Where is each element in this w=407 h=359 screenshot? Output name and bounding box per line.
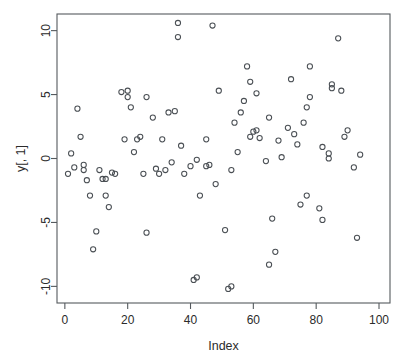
x-tick-label-0: 0 <box>62 313 69 327</box>
data-point <box>235 150 240 155</box>
data-point <box>182 171 187 176</box>
data-point <box>91 247 96 252</box>
data-point <box>169 160 174 165</box>
data-point <box>125 95 130 100</box>
data-point <box>109 170 114 175</box>
data-point <box>285 125 290 130</box>
data-point <box>141 171 146 176</box>
data-point <box>317 206 322 211</box>
y-tick-label-10: 10 <box>39 24 53 38</box>
data-point <box>131 150 136 155</box>
data-point <box>197 193 202 198</box>
data-point <box>128 105 133 110</box>
data-point <box>97 167 102 172</box>
data-point <box>119 89 124 94</box>
data-point <box>336 36 341 41</box>
data-point <box>194 157 199 162</box>
scatter-plot-figure: 020406080100-10-50510Indexy[, 1] <box>0 0 407 359</box>
data-point <box>175 20 180 25</box>
data-point <box>103 193 108 198</box>
data-point <box>345 128 350 133</box>
data-point <box>358 152 363 157</box>
data-point <box>307 95 312 100</box>
data-point <box>232 120 237 125</box>
data-point <box>238 110 243 115</box>
data-point <box>251 129 256 134</box>
x-axis-title: Index <box>208 339 239 353</box>
x-tick-label-40: 40 <box>184 313 198 327</box>
data-point <box>342 134 347 139</box>
data-point <box>229 167 234 172</box>
data-point <box>188 164 193 169</box>
data-point <box>351 165 356 170</box>
data-point <box>78 134 83 139</box>
data-point <box>204 164 209 169</box>
data-point <box>81 167 86 172</box>
data-point <box>295 142 300 147</box>
data-point <box>103 176 108 181</box>
data-point <box>326 151 331 156</box>
data-point <box>273 249 278 254</box>
data-point <box>301 120 306 125</box>
data-point <box>144 95 149 100</box>
data-point <box>172 109 177 114</box>
data-point <box>298 202 303 207</box>
data-point <box>87 193 92 198</box>
data-point <box>339 88 344 93</box>
data-point <box>354 235 359 240</box>
data-point <box>266 262 271 267</box>
y-tick-label-0: 0 <box>39 155 53 162</box>
plot-frame <box>57 14 390 303</box>
data-point <box>326 156 331 161</box>
data-point <box>204 137 209 142</box>
data-point <box>254 91 259 96</box>
data-point <box>65 171 70 176</box>
data-point <box>81 162 86 167</box>
data-point <box>329 86 334 91</box>
data-point <box>106 204 111 209</box>
data-point <box>248 134 253 139</box>
data-point <box>166 110 171 115</box>
data-point <box>113 171 118 176</box>
data-point <box>125 88 130 93</box>
data-point <box>270 216 275 221</box>
data-point <box>207 162 212 167</box>
data-point <box>144 230 149 235</box>
data-point <box>153 166 158 171</box>
data-point <box>210 23 215 28</box>
data-point <box>94 229 99 234</box>
plot-frame-group <box>57 14 390 303</box>
data-point <box>222 228 227 233</box>
data-point <box>292 132 297 137</box>
data-point <box>163 167 168 172</box>
data-point <box>216 88 221 93</box>
data-point <box>84 178 89 183</box>
data-points-group <box>65 20 362 291</box>
data-point <box>150 115 155 120</box>
data-point <box>257 135 262 140</box>
data-point <box>244 64 249 69</box>
data-point <box>304 193 309 198</box>
y-tick-label--5: -5 <box>39 217 53 228</box>
data-point <box>263 158 268 163</box>
x-tick-label-80: 80 <box>309 313 323 327</box>
x-tick-label-100: 100 <box>369 313 389 327</box>
x-tick-label-60: 60 <box>247 313 261 327</box>
data-point <box>160 137 165 142</box>
data-point <box>241 98 246 103</box>
data-point <box>157 171 162 176</box>
y-tick-label-5: 5 <box>39 91 53 98</box>
data-point <box>266 115 271 120</box>
data-point <box>175 34 180 39</box>
data-point <box>320 217 325 222</box>
data-point <box>320 144 325 149</box>
axis-ticks-group <box>51 31 379 309</box>
data-point <box>288 77 293 82</box>
y-axis-title: y[, 1] <box>14 145 28 172</box>
data-point <box>254 128 259 133</box>
data-point <box>213 181 218 186</box>
y-tick-label--10: -10 <box>39 277 53 295</box>
plot-canvas: 020406080100-10-50510Indexy[, 1] <box>0 0 407 359</box>
axis-labels-group: 020406080100-10-50510Indexy[, 1] <box>14 24 389 353</box>
data-point <box>72 165 77 170</box>
